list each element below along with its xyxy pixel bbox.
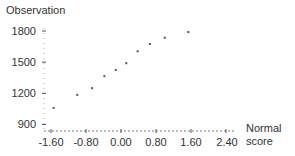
plot-area — [0, 0, 295, 156]
normal-probability-plot: Observation 1800 1500 1200 900 -1.60 -0.… — [0, 0, 295, 156]
axes — [42, 28, 235, 133]
data-points — [53, 31, 190, 109]
